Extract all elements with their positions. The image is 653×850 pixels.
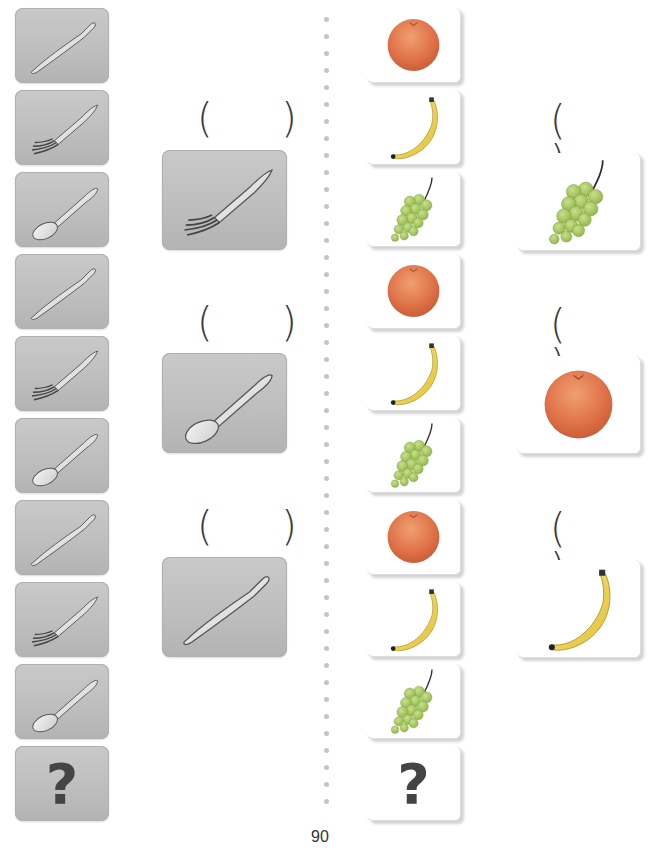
divider-dot: [324, 272, 329, 277]
grapes-icon: [367, 172, 460, 246]
sequence-card-fork: [15, 90, 109, 165]
divider-dot: [324, 459, 329, 464]
answer-blank[interactable]: ( ): [197, 506, 325, 546]
answer-blank[interactable]: ( ): [197, 302, 325, 342]
orange-icon: [367, 8, 460, 82]
choice-card-spoon[interactable]: [162, 353, 287, 453]
divider-dot: [324, 153, 329, 158]
sequence-card-banana: [367, 90, 461, 165]
banana-icon: [517, 560, 640, 657]
divider-dot: [324, 340, 329, 345]
divider-dot: [324, 119, 329, 124]
sequence-card-knife: [15, 8, 109, 83]
knife-icon: [15, 500, 109, 575]
knife-icon: [15, 254, 109, 329]
fork-icon: [15, 90, 109, 165]
sequence-card-fork: [15, 336, 109, 411]
orange-icon: [367, 500, 460, 574]
grapes-icon: [517, 153, 640, 250]
divider-dot: [324, 306, 329, 311]
divider-dot: [324, 51, 329, 56]
divider-dot: [324, 187, 329, 192]
divider-dot: [324, 510, 329, 515]
sequence-card-spoon: [15, 664, 109, 739]
sequence-card-banana: [367, 336, 461, 411]
choice-card-grapes[interactable]: [517, 153, 641, 251]
orange-icon: [367, 254, 460, 328]
sequence-card-spoon: [15, 172, 109, 247]
divider-dot: [324, 221, 329, 226]
divider-dot: [324, 578, 329, 583]
spoon-icon: [15, 418, 109, 493]
sequence-card-orange: [367, 8, 461, 83]
divider-dot: [324, 799, 329, 804]
banana-icon: [367, 90, 460, 164]
divider-dot: [324, 663, 329, 668]
divider-dot: [324, 34, 329, 39]
spoon-icon: [15, 172, 109, 247]
spoon-icon: [162, 353, 287, 453]
divider-dot: [324, 493, 329, 498]
grapes-icon: [367, 664, 460, 738]
divider-dot: [324, 68, 329, 73]
divider-dot: [324, 612, 329, 617]
divider-dot: [324, 561, 329, 566]
knife-icon: [15, 8, 109, 83]
fork-icon: [15, 336, 109, 411]
divider-dot: [324, 170, 329, 175]
question-mark-icon: ?: [367, 746, 460, 820]
divider-dot: [324, 391, 329, 396]
sequence-card-knife: [15, 500, 109, 575]
sequence-card-question[interactable]: ?: [15, 746, 109, 821]
divider-dot: [324, 357, 329, 362]
divider-dot: [324, 714, 329, 719]
grapes-icon: [367, 418, 460, 492]
divider-dot: [324, 136, 329, 141]
sequence-card-spoon: [15, 418, 109, 493]
choice-card-orange[interactable]: [517, 356, 641, 454]
banana-icon: [367, 582, 460, 656]
spoon-icon: [15, 664, 109, 739]
choice-card-knife[interactable]: [162, 557, 287, 657]
divider-dot: [324, 731, 329, 736]
sequence-card-grapes: [367, 418, 461, 493]
divider-dot: [324, 544, 329, 549]
orange-icon: [517, 356, 640, 453]
divider-dot: [324, 374, 329, 379]
divider-dot: [324, 680, 329, 685]
divider-dot: [324, 425, 329, 430]
question-mark-icon: ?: [15, 746, 109, 821]
fork-icon: [162, 150, 287, 250]
sequence-card-knife: [15, 254, 109, 329]
divider-dot: [324, 782, 329, 787]
choice-card-fork[interactable]: [162, 150, 287, 250]
divider-dot: [324, 323, 329, 328]
answer-blank[interactable]: ( ): [197, 98, 325, 138]
divider-dot: [324, 289, 329, 294]
page-number: 90: [311, 828, 329, 846]
sequence-card-grapes: [367, 172, 461, 247]
divider-dot: [324, 17, 329, 22]
divider-dot: [324, 748, 329, 753]
divider-dot: [324, 238, 329, 243]
divider-dot: [324, 527, 329, 532]
divider-dot: [324, 646, 329, 651]
divider-dot: [324, 765, 329, 770]
knife-icon: [162, 557, 287, 657]
sequence-card-banana: [367, 582, 461, 657]
divider-dot: [324, 697, 329, 702]
divider-dot: [324, 629, 329, 634]
divider-dot: [324, 102, 329, 107]
divider-dot: [324, 408, 329, 413]
sequence-card-grapes: [367, 664, 461, 739]
divider-dot: [324, 204, 329, 209]
divider-dot: [324, 442, 329, 447]
divider-dot: [324, 595, 329, 600]
choice-card-banana[interactable]: [517, 560, 641, 658]
sequence-card-orange: [367, 500, 461, 575]
divider-dot: [324, 255, 329, 260]
banana-icon: [367, 336, 460, 410]
sequence-card-question[interactable]: ?: [367, 746, 461, 821]
divider-dot: [324, 85, 329, 90]
sequence-card-orange: [367, 254, 461, 329]
